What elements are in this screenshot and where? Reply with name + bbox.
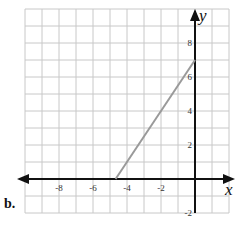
y-tick-label: 2 — [188, 140, 193, 150]
data-line — [116, 60, 195, 179]
part-label: b. — [4, 196, 15, 212]
y-tick-label: 8 — [188, 38, 193, 48]
axes: xy — [17, 6, 235, 213]
x-tick-label: -8 — [55, 183, 63, 193]
y-tick-label: 4 — [188, 106, 193, 116]
y-tick-label: -2 — [185, 208, 193, 218]
y-axis-label: y — [197, 6, 207, 25]
x-tick-label: -2 — [157, 183, 165, 193]
y-tick-label: 6 — [188, 72, 193, 82]
x-axis-left-arrow-icon — [17, 174, 29, 184]
coordinate-plane: xy -8-6-4-22468-2 — [0, 0, 244, 226]
x-tick-label: -4 — [123, 183, 131, 193]
x-tick-label: -6 — [89, 183, 97, 193]
x-axis-label: x — [224, 180, 233, 199]
line-segment — [116, 60, 195, 179]
